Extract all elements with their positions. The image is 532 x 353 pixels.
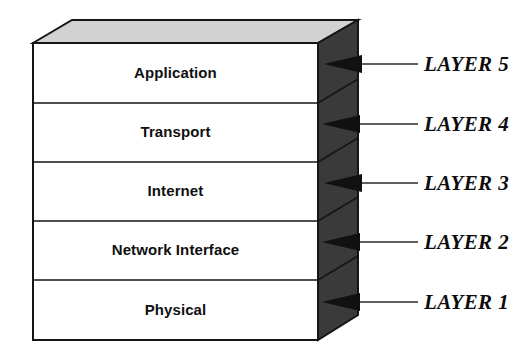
layer-name-physical: Physical bbox=[34, 301, 317, 318]
layer-name-network-interface: Network Interface bbox=[34, 241, 317, 258]
layer-tag-4: LAYER 4 bbox=[424, 112, 509, 137]
layer-tag-5: LAYER 5 bbox=[424, 52, 509, 77]
layer-tag-2: LAYER 2 bbox=[424, 230, 509, 255]
layer-tag-3: LAYER 3 bbox=[424, 171, 509, 196]
layer-tag-1: LAYER 1 bbox=[424, 290, 509, 315]
layer-name-transport: Transport bbox=[34, 123, 317, 140]
layer-name-internet: Internet bbox=[34, 182, 317, 199]
layer-name-application: Application bbox=[34, 64, 317, 81]
stack-top-face bbox=[33, 20, 358, 43]
protocol-stack-diagram: Application Transport Internet Network I… bbox=[0, 0, 532, 353]
